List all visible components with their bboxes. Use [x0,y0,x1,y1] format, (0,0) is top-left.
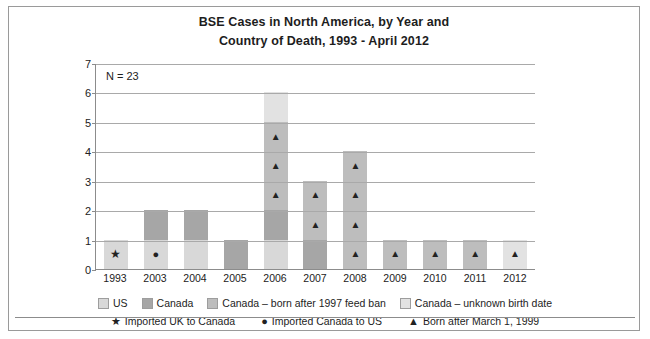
bar-segment-2007-feedban: ▲ [303,210,327,239]
triangle-marker-icon: ▲ [311,190,321,200]
legend-swatch-icon-1 [142,298,153,309]
bar-segment-2006-unknown [264,92,288,121]
chart-title: BSE Cases in North America, by Year and … [9,13,639,51]
bar-1993[interactable]: ★ [104,240,128,269]
y-tick-4: 4 [73,146,91,158]
y-tick-0: 0 [73,264,91,276]
legend-divider [15,317,635,318]
bar-segment-2011-feedban: ▲ [463,240,487,269]
legend-item-1[interactable]: Canada [142,297,194,309]
chart-title-line-1: BSE Cases in North America, by Year and [9,13,639,32]
y-tick-7: 7 [73,58,91,70]
y-tick-mark-3 [92,182,96,183]
bar-2011[interactable]: ▲ [463,240,487,269]
y-tick-mark-1 [92,241,96,242]
bar-column-2007[interactable]: ▲▲ [296,64,336,269]
triangle-marker-icon: ▲ [510,249,520,259]
x-tick-2006: 2006 [255,272,295,288]
triangle-marker-icon: ▲ [350,220,360,230]
bar-segment-2008-feedban: ▲ [343,210,367,239]
y-tick-mark-6 [92,93,96,94]
legend-item-0[interactable]: US [98,297,128,309]
legend-swatch-icon-0 [98,298,109,309]
gridline-1 [96,241,535,242]
bar-column-2010[interactable]: ▲ [415,64,455,269]
bar-2009[interactable]: ▲ [383,240,407,269]
bar-segment-2008-feedban: ▲ [343,151,367,180]
x-tick-1993: 1993 [95,272,135,288]
bar-2010[interactable]: ▲ [423,240,447,269]
chart-legend: USCanadaCanada – born after 1997 feed ba… [21,295,629,329]
gridline-6 [96,93,535,94]
bar-segment-2003-canada [144,210,168,239]
legend-item-2[interactable]: Canada – born after 1997 feed ban [207,297,385,309]
star-marker-icon: ★ [110,248,121,260]
x-tick-2010: 2010 [415,272,455,288]
triangle-marker-icon: ▲ [430,249,440,259]
legend-swatch-row: USCanadaCanada – born after 1997 feed ba… [21,295,629,311]
bar-column-2004[interactable] [176,64,216,269]
triangle-marker-icon: ▲ [350,161,360,171]
x-tick-2012: 2012 [495,272,535,288]
bar-group: ★●▲▲▲▲▲▲▲▲▲▲▲▲▲ [96,64,535,269]
x-tick-2011: 2011 [455,272,495,288]
chart-figure: BSE Cases in North America, by Year and … [8,6,640,331]
bar-segment-2012-unknown: ▲ [503,240,527,269]
x-tick-2007: 2007 [295,272,335,288]
y-tick-mark-2 [92,211,96,212]
bar-column-2011[interactable]: ▲ [455,64,495,269]
bar-segment-2006-feedban: ▲ [264,181,288,210]
bar-segment-2006-canada [264,210,288,239]
legend-item-3[interactable]: Canada – unknown birth date [400,297,552,309]
bar-segment-2010-feedban: ▲ [423,240,447,269]
bar-segment-2006-feedban: ▲ [264,151,288,180]
bar-segment-2008-feedban: ▲ [343,181,367,210]
bar-segment-2003-us: ● [144,240,168,269]
bar-column-2009[interactable]: ▲ [375,64,415,269]
bar-column-2003[interactable]: ● [136,64,176,269]
gridline-2 [96,211,535,212]
bar-segment-2004-canada [184,210,208,239]
x-tick-2008: 2008 [335,272,375,288]
legend-label-2: Canada – born after 1997 feed ban [222,297,385,309]
y-axis-tick-labels: 01234567 [73,64,91,270]
x-tick-2005: 2005 [215,272,255,288]
bar-column-2008[interactable]: ▲▲▲▲ [335,64,375,269]
y-tick-1: 1 [73,235,91,247]
bar-segment-2009-feedban: ▲ [383,240,407,269]
y-tick-5: 5 [73,117,91,129]
gridline-7 [96,64,535,65]
bar-column-2005[interactable] [216,64,256,269]
legend-label-3: Canada – unknown birth date [415,297,552,309]
bar-column-2006[interactable]: ▲▲▲ [256,64,296,269]
bar-2012[interactable]: ▲ [503,240,527,269]
bar-column-1993[interactable]: ★ [96,64,136,269]
y-tick-mark-5 [92,123,96,124]
bar-column-2012[interactable]: ▲ [495,64,535,269]
bar-2005[interactable] [224,240,248,269]
bar-segment-2005-canada [224,240,248,269]
bar-segment-1993-us: ★ [104,240,128,269]
triangle-marker-icon: ▲ [271,190,281,200]
x-tick-2004: 2004 [175,272,215,288]
triangle-marker-icon: ▲ [390,249,400,259]
bar-segment-2007-canada [303,240,327,269]
bar-segment-2006-feedban: ▲ [264,122,288,151]
y-tick-mark-7 [92,64,96,65]
legend-label-0: US [113,297,128,309]
bar-segment-2008-feedban: ▲ [343,240,367,269]
bar-segment-2004-us [184,240,208,269]
bar-2007[interactable]: ▲▲ [303,181,327,269]
triangle-marker-icon: ▲ [350,190,360,200]
y-tick-mark-4 [92,152,96,153]
triangle-marker-icon: ▲ [350,249,360,259]
gridline-3 [96,182,535,183]
legend-marker-row: ★Imported UK to Canada●Imported Canada t… [21,313,629,329]
plot-area: N = 23 ★●▲▲▲▲▲▲▲▲▲▲▲▲▲ [95,64,535,270]
circle-marker-icon: ● [153,249,160,260]
triangle-marker-icon: ▲ [311,220,321,230]
x-tick-2009: 2009 [375,272,415,288]
x-axis-tick-labels: 1993200320042005200620072008200920102011… [95,272,535,288]
bar-segment-2006-us [264,240,288,269]
gridline-4 [96,152,535,153]
